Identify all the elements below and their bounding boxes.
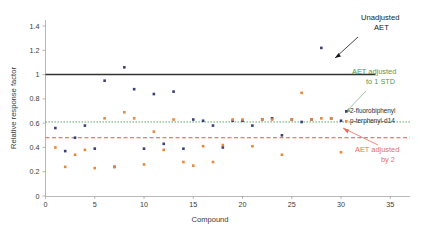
data-point (340, 151, 343, 154)
x-tick-label: 5 (93, 200, 97, 209)
y-axis-title: Relative response factor (9, 67, 18, 149)
data-point (162, 149, 165, 152)
data-point (182, 147, 185, 150)
x-tick-label: 30 (337, 200, 345, 209)
data-point (251, 145, 254, 148)
y-tick-label: 0 (36, 192, 40, 201)
data-point (320, 117, 323, 120)
data-point (290, 118, 293, 121)
y-tick-label: 0.8 (30, 94, 40, 103)
data-point (222, 146, 225, 149)
data-point (192, 118, 195, 121)
data-point (261, 118, 264, 121)
data-point (103, 79, 106, 82)
data-point (153, 93, 156, 96)
legend-label: p-terphenyl-d14 (350, 117, 395, 125)
chart-background (0, 0, 423, 230)
data-point (271, 118, 274, 121)
data-point (172, 90, 175, 93)
annotation-line-1: AET adjusted (355, 145, 399, 154)
data-point (300, 92, 303, 95)
data-point (74, 136, 77, 139)
data-point (143, 163, 146, 166)
data-point (212, 161, 215, 164)
data-point (340, 119, 343, 122)
relative-response-factor-chart: 00.20.40.60.811.21.4 05101520253035 Rela… (0, 0, 423, 230)
data-point (281, 134, 284, 137)
y-tick-label: 0.6 (30, 119, 40, 128)
data-point (310, 118, 313, 121)
data-point (123, 66, 126, 69)
data-point (231, 118, 234, 121)
data-point (54, 127, 57, 130)
data-point (113, 166, 116, 169)
legend-swatch (345, 110, 348, 113)
data-point (212, 124, 215, 127)
annotation-line-1: Unadjusted (361, 13, 399, 22)
data-point (202, 119, 205, 122)
data-point (300, 121, 303, 124)
x-tick-label: 10 (140, 200, 148, 209)
data-point (241, 118, 244, 121)
x-tick-label: 20 (239, 200, 247, 209)
data-point (153, 130, 156, 133)
data-point (222, 144, 225, 147)
annotation-line-2: to 1 STD (366, 77, 395, 86)
legend-label: 2-fluorobiphenyl (350, 107, 395, 115)
data-point (162, 143, 165, 146)
data-point (172, 118, 175, 121)
data-point (251, 124, 254, 127)
x-axis-title: Compound (191, 215, 228, 224)
data-point (93, 167, 96, 170)
data-point (202, 145, 205, 148)
data-point (133, 88, 136, 91)
y-tick-label: 0.2 (30, 167, 40, 176)
data-point (192, 164, 195, 167)
y-tick-label: 1.2 (30, 46, 40, 55)
scatter-plot-svg: 00.20.40.60.811.21.4 05101520253035 Rela… (0, 0, 423, 230)
annotation-line-2: AET (374, 23, 389, 32)
data-point (133, 117, 136, 120)
data-point (330, 117, 333, 120)
data-point (93, 147, 96, 150)
data-point (320, 47, 323, 50)
y-tick-label: 0.4 (30, 143, 40, 152)
data-point (281, 153, 284, 156)
data-point (143, 147, 146, 150)
x-tick-label: 35 (386, 200, 394, 209)
data-point (54, 146, 57, 149)
x-tick-label: 15 (189, 200, 197, 209)
data-point (84, 124, 87, 127)
annotation-line-1: AET adjusted (352, 67, 396, 76)
data-point (74, 153, 77, 156)
x-tick-label: 25 (288, 200, 296, 209)
data-point (123, 111, 126, 114)
data-point (182, 161, 185, 164)
data-point (103, 117, 106, 120)
data-point (64, 150, 67, 153)
y-tick-label: 1.4 (30, 22, 40, 31)
x-tick-label: 0 (44, 200, 48, 209)
y-tick-label: 1 (36, 70, 40, 79)
legend-swatch (345, 120, 348, 123)
data-point (64, 166, 67, 169)
data-point (84, 149, 87, 152)
annotation-line-2: by 2 (381, 155, 395, 164)
